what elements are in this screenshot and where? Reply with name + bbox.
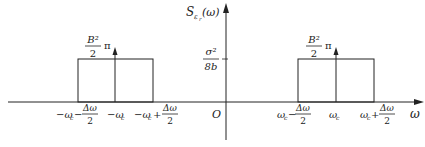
svg-text:c: c (121, 114, 125, 121)
svg-text:2: 2 (167, 116, 173, 126)
svg-text:c: c (336, 114, 340, 121)
svg-text:2: 2 (90, 48, 96, 59)
svg-text:π: π (325, 40, 332, 51)
right-impulse-label: B² 2 π (306, 34, 332, 59)
svg-text:B²: B² (86, 34, 98, 45)
svg-text:σ²: σ² (206, 46, 217, 57)
psd-diagram: ω S ε r (ω) O σ² 8b B² 2 π −ω c − Δ (0, 0, 425, 147)
right-impulse-arrow-icon (334, 47, 339, 55)
x-axis-arrow-icon (414, 99, 424, 105)
svg-text:B²: B² (307, 34, 319, 45)
svg-text:Δω: Δω (82, 103, 97, 113)
origin-label: O (212, 108, 221, 121)
svg-text:Δω: Δω (295, 103, 310, 113)
tick-right-low: ω c − Δω 2 (277, 103, 311, 126)
svg-text:S: S (186, 5, 194, 19)
svg-text:c: c (148, 114, 152, 121)
left-impulse-arrow-icon (113, 47, 118, 55)
svg-text:2: 2 (87, 116, 93, 126)
svg-text:+: + (153, 109, 161, 120)
svg-text:Δω: Δω (379, 103, 394, 113)
x-axis-label: ω (410, 107, 420, 121)
svg-text:−: − (74, 109, 82, 120)
left-band: B² 2 π −ω c − Δω 2 −ω c −ω c + Δω 2 (56, 34, 178, 126)
svg-text:2: 2 (384, 116, 390, 126)
svg-text:2: 2 (300, 116, 306, 126)
left-impulse-label: B² 2 π (85, 34, 111, 59)
svg-text:Δω: Δω (162, 103, 177, 113)
y-axis-arrow-icon (223, 3, 229, 13)
svg-text:+: + (371, 109, 379, 120)
svg-text:π: π (104, 40, 111, 51)
tick-right-high: ω c + Δω 2 (360, 103, 395, 126)
svg-text:2: 2 (311, 48, 317, 59)
tick-right-center: ω c (329, 109, 340, 121)
svg-text:8b: 8b (205, 61, 218, 72)
svg-text:(ω): (ω) (202, 6, 220, 19)
tick-left-low: −ω c − Δω 2 (56, 103, 98, 126)
y-axis-label: S ε r (ω) (186, 5, 220, 22)
tick-left-center: −ω c (107, 109, 125, 121)
y-axis (223, 3, 229, 140)
svg-text:ε: ε (194, 13, 198, 21)
tick-left-high: −ω c + Δω 2 (134, 103, 178, 126)
right-band: B² 2 π ω c − Δω 2 ω c ω c + Δω 2 (277, 34, 395, 126)
level-label: σ² 8b (203, 46, 219, 72)
